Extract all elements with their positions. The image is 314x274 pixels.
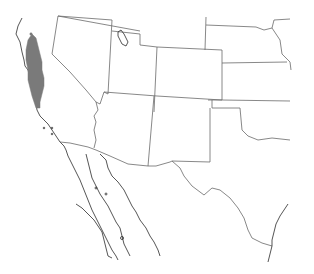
arizona-newmexico-border	[148, 96, 154, 166]
colorado-border	[157, 47, 222, 100]
sonora-coast	[100, 154, 160, 256]
texas-gulf-coast	[268, 204, 288, 262]
baja-gulf-coast	[86, 154, 130, 256]
us-mexico-border	[60, 142, 272, 246]
nevada-arizona-border	[96, 92, 108, 104]
missouri-river-border	[272, 28, 291, 70]
island	[43, 127, 45, 129]
four-corners-latitude-border	[104, 92, 222, 100]
nevada-idaho-border	[58, 16, 140, 31]
texas-newmexico-border	[172, 108, 210, 162]
kansas-oklahoma-border	[222, 100, 290, 101]
utah-colorado-border	[154, 47, 157, 112]
oklahoma-panhandle-border	[212, 100, 290, 140]
island	[51, 127, 53, 129]
island	[105, 193, 107, 195]
island	[51, 133, 53, 135]
nebraska-south-border	[222, 62, 287, 63]
california-nevada-border	[52, 16, 98, 148]
california-oregon-border	[58, 16, 112, 20]
island	[95, 187, 97, 189]
baja-west-coast	[76, 204, 112, 258]
utah-north-border	[112, 31, 157, 47]
species-range-outlier	[30, 33, 32, 35]
nebraska-north-border	[206, 19, 290, 30]
range-map	[0, 0, 314, 274]
wyoming-nebraska-border	[205, 17, 206, 50]
nevada-utah-border	[108, 20, 112, 94]
species-range-area	[26, 34, 44, 108]
